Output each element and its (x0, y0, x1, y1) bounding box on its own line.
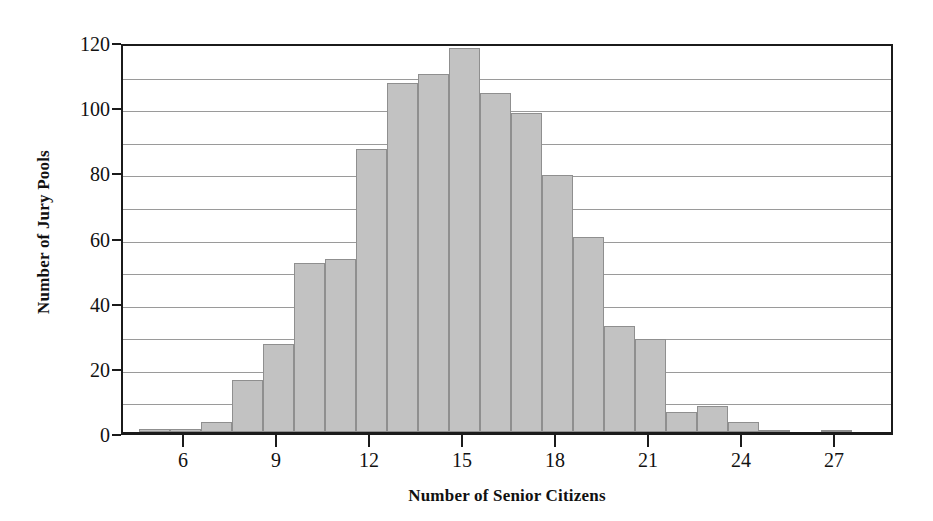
y-axis-tick-label: 60 (50, 230, 110, 250)
histogram-bar (480, 93, 511, 432)
x-axis-tick-label: 24 (711, 450, 771, 470)
histogram-bar (759, 430, 790, 432)
y-axis-tick (112, 369, 121, 371)
histogram-bar (728, 422, 759, 432)
x-axis-tick (554, 435, 556, 447)
histogram-bar (232, 380, 263, 432)
y-axis-tick-label: 100 (50, 99, 110, 119)
y-axis-tick-label: 40 (50, 295, 110, 315)
y-axis-tick (112, 304, 121, 306)
y-axis-tick-label: 20 (50, 360, 110, 380)
histogram-bar (511, 113, 542, 432)
histogram-bar (697, 406, 728, 432)
y-axis-tick-label: 0 (50, 425, 110, 445)
x-axis-tick-label: 21 (618, 450, 678, 470)
histogram-bar (418, 74, 449, 432)
x-axis-tick-label: 9 (246, 450, 306, 470)
x-axis-tick (182, 435, 184, 447)
y-axis-tick (112, 173, 121, 175)
histogram-bar (294, 263, 325, 432)
x-axis-tick (647, 435, 649, 447)
x-axis-ticks (121, 435, 893, 449)
x-axis-tick (461, 435, 463, 447)
histogram-bar (604, 326, 635, 432)
histogram-figure: Number of Jury Pools 020406080100120 691… (0, 0, 933, 521)
y-axis-tick-labels: 020406080100120 (38, 0, 110, 521)
histogram-bar (635, 339, 666, 432)
x-axis-tick (368, 435, 370, 447)
histogram-bar (821, 430, 852, 432)
x-axis-tick-label: 27 (804, 450, 864, 470)
x-axis-title: Number of Senior Citizens (121, 486, 893, 506)
histogram-bar (666, 412, 697, 432)
plot-area (121, 44, 893, 435)
x-axis-tick (275, 435, 277, 447)
x-axis-tick-label: 12 (339, 450, 399, 470)
histogram-bar (449, 48, 480, 432)
y-axis-tick-label: 80 (50, 164, 110, 184)
y-axis-tick-label: 120 (50, 34, 110, 54)
histogram-bar (263, 344, 294, 432)
histogram-bar (170, 429, 201, 432)
histogram-bar (201, 422, 232, 432)
x-axis-tick-labels: 69121518212427 (121, 450, 893, 480)
histogram-bar (573, 237, 604, 433)
y-axis-tick (112, 434, 121, 436)
x-axis-tick (740, 435, 742, 447)
histogram-bar (139, 429, 170, 432)
histogram-bar (542, 175, 573, 432)
histogram-bar (325, 259, 356, 432)
y-axis-tick (112, 43, 121, 45)
plot-inner (123, 46, 891, 432)
x-axis-tick (833, 435, 835, 447)
histogram-bar (356, 149, 387, 432)
y-axis-tick (112, 108, 121, 110)
y-axis-tick (112, 239, 121, 241)
x-axis-tick-label: 6 (153, 450, 213, 470)
x-axis-tick-label: 15 (432, 450, 492, 470)
gridline (123, 79, 891, 80)
histogram-bar (387, 83, 418, 432)
x-axis-tick-label: 18 (525, 450, 585, 470)
